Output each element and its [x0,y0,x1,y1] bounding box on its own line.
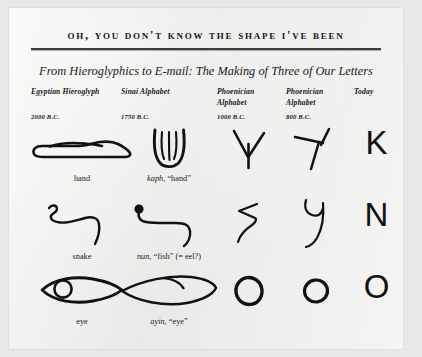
caption-transliteration: kaph, [147,174,165,183]
glyph-sinai-kaph [121,128,217,170]
column-date-sinai: 1750 B.C. [121,113,150,120]
column-header-line1: Phoenician [286,87,323,96]
column-header-line1: Sinai Alphabet [121,87,169,96]
column-date-phoenician-800: 800 B.C. [286,113,311,120]
column-header-line1: Today [354,87,373,96]
modern-letter-o: O [349,270,404,303]
column-header-phoenician-800: Phoenician Alphabet [286,87,356,108]
page-title: Oh, You Don't Know the Shape I've Been [31,28,381,43]
subtitle: From Hieroglyphics to E-mail: The Making… [9,64,403,79]
caption-gloss: “eye” [169,317,188,326]
column-header-line1: Phoenician [217,87,254,96]
caption-transliteration: ayin, [150,317,166,326]
headline-block: Oh, You Don't Know the Shape I've Been [31,28,381,50]
caption-sinai-ayin: ayin, “eye” [117,317,221,326]
caption-gloss: “fish” (= eel?) [154,252,202,261]
column-date-egyptian: 2000 B.C. [31,113,60,120]
column-header-phoenician-1000: Phoenician Alphabet [217,87,287,108]
glyph-phoenician800-ayin [281,272,351,310]
glyph-phoenician1000-nun [214,198,284,248]
caption-transliteration: nun, [137,252,152,261]
glyph-phoenician800-kaph [281,126,351,172]
glyph-phoenician800-nun [281,196,351,250]
caption-sinai-nun: nun, “fish” (= eel?) [113,252,225,261]
glyph-phoenician1000-ayin [214,270,284,312]
glyph-sinai-nun [121,200,217,248]
column-header-sinai: Sinai Alphabet [121,87,216,98]
column-header-line2: Alphabet [217,98,246,107]
column-header-line1: Egyptian Hieroglyph [31,87,99,96]
column-date-phoenician-1000: 1000 B.C. [217,113,246,120]
title-divider [31,48,381,50]
column-header-today: Today [354,87,404,98]
caption-sinai-kaph: kaph, “hand” [121,174,217,183]
glyph-phoenician1000-kaph [214,126,284,172]
column-header-line2: Alphabet [286,98,315,107]
modern-letter-n: N [349,198,404,231]
page-sheet: Oh, You Don't Know the Shape I've Been F… [9,8,403,349]
caption-gloss: “hand” [167,174,191,183]
modern-letter-k: K [349,126,404,159]
glyph-sinai-ayin [117,270,221,310]
